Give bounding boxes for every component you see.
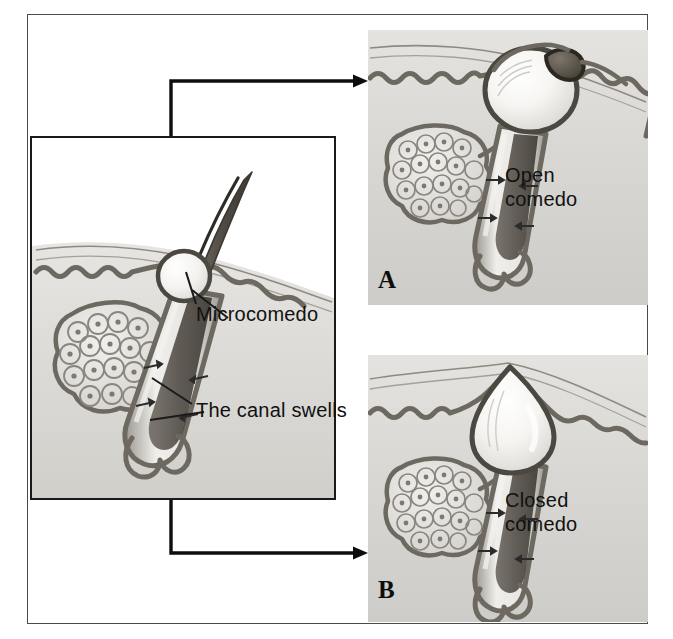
figure-stage: Microcomedo The canal swells Open comedo… [0, 0, 673, 639]
panel-letter-b: B [378, 576, 395, 604]
open-comedo-caption: Open comedo [505, 163, 577, 212]
microcomedo-label: Microcomedo [196, 303, 318, 326]
panel-letter-a: A [378, 266, 396, 294]
closed-comedo-caption: Closed comedo [505, 488, 577, 537]
canal-swells-label: The canal swells [196, 399, 347, 422]
